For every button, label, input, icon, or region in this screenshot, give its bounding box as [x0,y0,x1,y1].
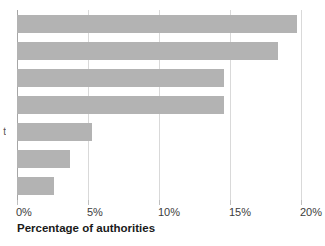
bar [17,15,297,33]
cropped-category-label: t [0,126,6,135]
x-tick-mark [159,200,160,205]
x-tick-label: 5% [87,206,103,218]
x-tick-mark [88,200,89,205]
x-tick-label: 20% [300,206,322,218]
x-tick-mark [17,200,18,205]
x-tick-label: 15% [229,206,251,218]
x-tick-label: 0% [16,206,32,218]
bar [17,150,70,168]
x-axis-title: Percentage of authorities [17,222,155,234]
x-tick-label: 10% [158,206,180,218]
x-tick-mark [301,200,302,205]
x-axis: 0%5%10%15%20% [17,200,301,222]
bar [17,42,278,60]
bar-series [17,10,301,200]
gridline-20 [301,10,302,200]
bar [17,123,92,141]
bar-chart: 0%5%10%15%20% Percentage of authorities … [0,0,325,246]
bar [17,69,224,87]
bar [17,177,54,195]
x-tick-mark [230,200,231,205]
plot-area [17,10,301,200]
bar [17,96,224,114]
